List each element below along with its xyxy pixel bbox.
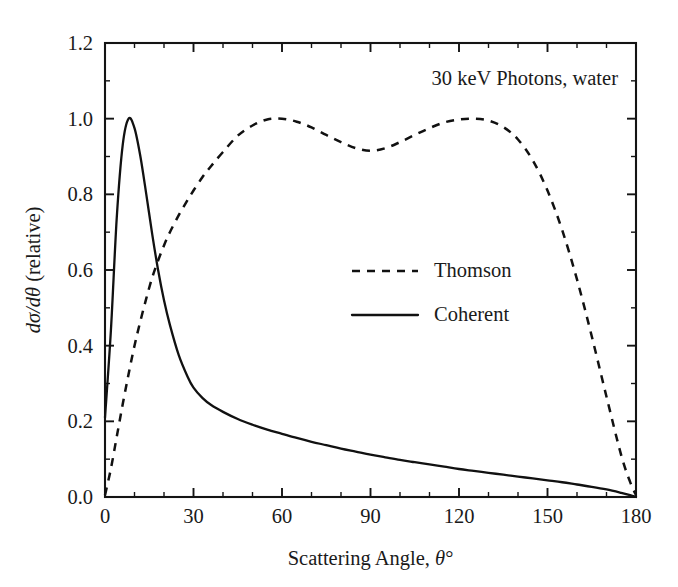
legend-label-thomson: Thomson bbox=[434, 259, 511, 281]
x-axis-title: Scattering Angle, θ° bbox=[288, 547, 454, 570]
x-tick-label: 150 bbox=[532, 505, 563, 527]
y-tick-label: 0.4 bbox=[67, 335, 93, 357]
chart-canvas: 0306090120150180 0.00.20.40.60.81.01.2 3… bbox=[0, 0, 678, 587]
x-tick-label: 120 bbox=[444, 505, 475, 527]
legend-label-coherent: Coherent bbox=[434, 303, 509, 325]
scattering-angle-chart-figure: 0306090120150180 0.00.20.40.60.81.01.2 3… bbox=[0, 0, 678, 587]
x-tick-label: 90 bbox=[360, 505, 381, 527]
x-tick-label: 180 bbox=[621, 505, 652, 527]
chart-annotation: 30 keV Photons, water bbox=[432, 67, 619, 89]
curve-coherent bbox=[105, 118, 636, 497]
y-tick-label: 0.0 bbox=[67, 486, 93, 508]
x-title-degree: ° bbox=[445, 547, 453, 569]
data-curves bbox=[105, 118, 636, 497]
y-tick-label: 1.2 bbox=[67, 32, 93, 54]
x-title-lead: Scattering Angle, bbox=[288, 547, 435, 570]
y-title-theta: θ bbox=[22, 287, 44, 297]
y-tick-label: 0.6 bbox=[67, 259, 93, 281]
y-title-tail: (relative) bbox=[22, 207, 45, 287]
x-tick-label: 0 bbox=[100, 505, 110, 527]
curve-thomson bbox=[105, 118, 636, 495]
y-tick-label: 0.2 bbox=[67, 410, 93, 432]
y-tick-label: 1.0 bbox=[67, 108, 93, 130]
y-axis-title: dσ/dθ (relative) bbox=[22, 207, 45, 334]
x-tick-label: 30 bbox=[183, 505, 204, 527]
chart-legend: ThomsonCoherent bbox=[352, 259, 511, 325]
x-title-theta: θ bbox=[435, 547, 445, 569]
x-tick-label: 60 bbox=[272, 505, 293, 527]
y-axis-tick-labels: 0.00.20.40.60.81.01.2 bbox=[67, 32, 93, 508]
y-title-lead: dσ/d bbox=[22, 296, 44, 333]
y-tick-label: 0.8 bbox=[67, 183, 93, 205]
x-axis-tick-labels: 0306090120150180 bbox=[100, 505, 652, 527]
